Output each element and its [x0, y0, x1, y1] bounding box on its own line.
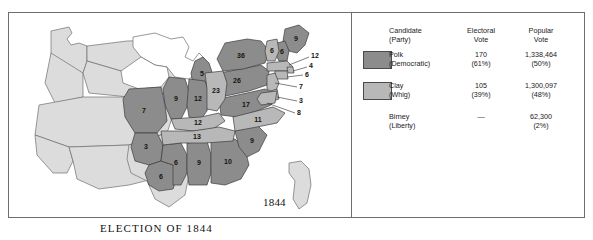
ev-missouri: 7 — [142, 107, 146, 114]
legend-header-candidate: Candidate (Party) — [389, 27, 422, 44]
ev-new-hampshire: 6 — [280, 48, 284, 55]
state-florida-territory — [289, 161, 311, 209]
legend-table: Candidate (Party) Electoral Vote Popular… — [352, 13, 584, 217]
legend-electoral-clay: 105 (39%) — [458, 82, 504, 99]
legend-popular-polk: 1,338,464 (50%) — [510, 51, 572, 68]
map-panel: 5 9 12 23 7 3 6 6 9 10 9 12 13 11 17 26 … — [9, 13, 351, 217]
legend-electoral-birney: — — [458, 113, 504, 122]
ev-connecticut: 6 — [305, 71, 309, 78]
legend-candidate-birney: Birney (Liberty) — [389, 113, 415, 130]
legend-header-popular-vote: Popular Vote — [510, 27, 572, 44]
ev-georgia: 10 — [224, 158, 232, 165]
ev-north-carolina: 11 — [254, 116, 262, 123]
ev-indiana: 12 — [194, 95, 202, 102]
ev-kentucky: 12 — [194, 119, 202, 126]
ev-virginia: 17 — [242, 101, 250, 108]
ev-maine: 9 — [294, 35, 298, 42]
ev-delaware: 3 — [299, 97, 303, 104]
ev-massachusetts: 12 — [311, 52, 319, 59]
ev-michigan: 5 — [200, 70, 204, 77]
leader-connecticut — [287, 75, 303, 77]
ev-vermont: 6 — [270, 47, 274, 54]
legend-electoral-polk: 170 (61%) — [458, 51, 504, 68]
leader-delaware — [277, 97, 297, 101]
ev-tennessee: 13 — [193, 133, 201, 140]
ev-louisiana: 6 — [159, 173, 163, 180]
legend-panel: Candidate (Party) Electoral Vote Popular… — [352, 13, 584, 217]
legend-swatch-polk — [363, 51, 392, 69]
ev-new-york: 36 — [237, 52, 245, 59]
us-map-1844: 5 9 12 23 7 3 6 6 9 10 9 12 13 11 17 26 … — [9, 13, 351, 217]
ev-new-jersey: 7 — [299, 83, 303, 90]
ev-alabama: 9 — [197, 159, 201, 166]
legend-candidate-clay: Clay (Whig) — [389, 82, 410, 99]
legend-candidate-polk: Polk (Democratic) — [389, 51, 430, 68]
legend-header-electoral-vote: Electoral Vote — [458, 27, 504, 44]
figure-caption: ELECTION OF 1844 — [100, 222, 213, 234]
ev-south-carolina: 9 — [250, 137, 254, 144]
legend-popular-birney: 62,300 (2%) — [510, 113, 572, 130]
election-map-figure: 5 9 12 23 7 3 6 6 9 10 9 12 13 11 17 26 … — [0, 0, 593, 240]
ev-maryland: 8 — [297, 109, 301, 116]
ev-rhode-island: 4 — [309, 62, 313, 69]
ev-ohio: 23 — [212, 87, 220, 94]
map-year-label: 1844 — [263, 196, 286, 208]
ev-pennsylvania: 26 — [233, 77, 241, 84]
ev-illinois: 9 — [174, 95, 178, 102]
legend-swatch-clay — [363, 82, 392, 100]
leader-massachusetts — [289, 57, 309, 65]
ev-mississippi: 6 — [174, 159, 178, 166]
legend-popular-clay: 1,300,097 (48%) — [510, 82, 572, 99]
ev-arkansas: 3 — [144, 143, 148, 150]
state-rhode-island — [287, 67, 294, 73]
